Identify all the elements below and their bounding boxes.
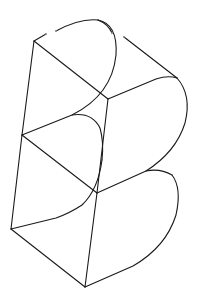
diag-top-line [34,41,108,99]
lower-inner-bowl-line [11,160,102,229]
left-spine-lower-line [11,135,22,229]
top-bowl-front-line [22,20,116,135]
upper-back-edge-line [124,37,177,78]
left-spine-upper-line [22,41,34,135]
upper-bowl-back-line [146,78,187,171]
diag-bottom-line [11,229,85,287]
upper-inner-bowl-line [72,115,103,160]
wireframe-svg [0,0,199,303]
lower-top-edge-line [97,170,172,193]
letter-b-wireframe-diagram [0,0,199,303]
top-edge-left-stub-line [34,34,46,41]
top-right-gap-dot [111,32,113,34]
diag-middle-line [22,135,97,193]
top-right-gap-dot [123,36,125,38]
top-left-gap-dot [55,30,57,32]
top-left-gap-dot [45,33,47,35]
center-spine-lower-line [85,193,97,287]
upper-mid-edge-line [108,77,177,99]
wireframe-edges [11,20,187,287]
top-edge-line [56,20,98,31]
